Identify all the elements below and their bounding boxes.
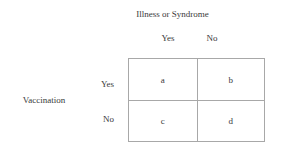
row-header-yes: Yes [62, 79, 114, 90]
table-cell-c: c [129, 100, 197, 141]
row-header-no: No [62, 114, 114, 125]
table-cell-d: d [197, 100, 265, 141]
column-header-no: No [182, 33, 242, 44]
contingency-table-diagram: Illness or Syndrome Yes No Vaccination Y… [0, 0, 283, 150]
column-variable-title: Illness or Syndrome [0, 9, 283, 20]
table-grid: a b c d [128, 58, 265, 142]
row-variable-title: Vaccination [8, 95, 80, 106]
table-cell-b: b [197, 59, 265, 100]
table-cell-a: a [129, 59, 197, 100]
